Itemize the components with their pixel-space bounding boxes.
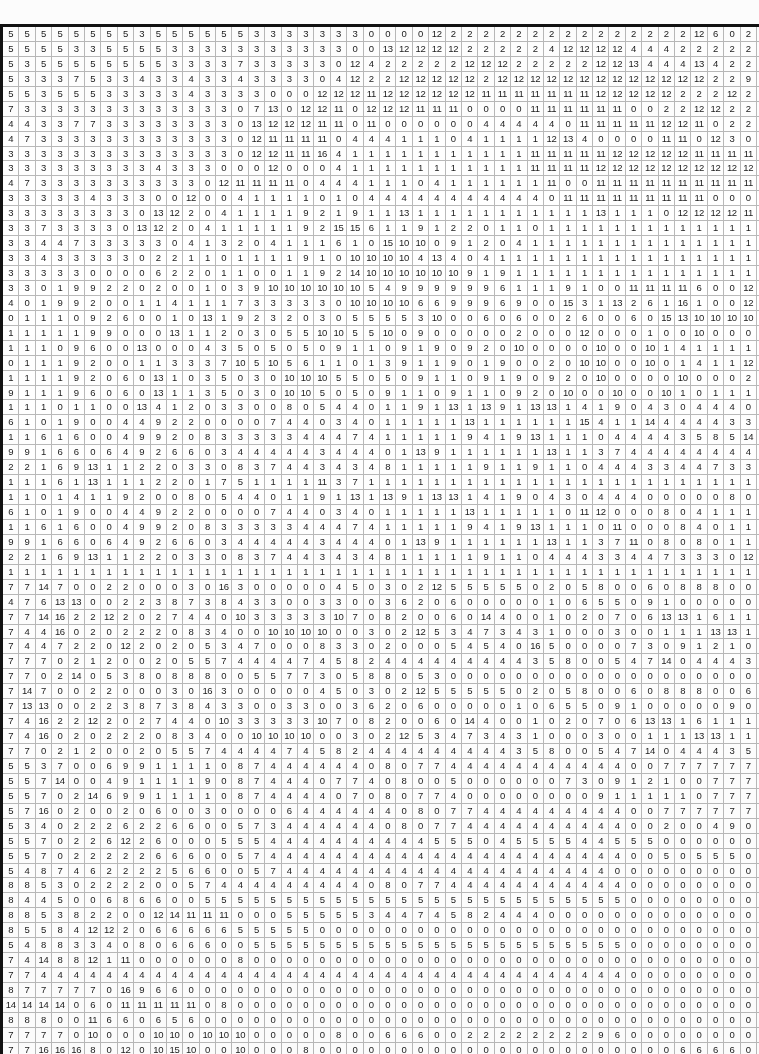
matrix-cell: 4	[527, 116, 543, 131]
matrix-cell: 1	[576, 266, 592, 281]
matrix-cell: 12	[101, 609, 117, 624]
matrix-cell: 4	[412, 833, 428, 848]
matrix-cell: 3	[347, 26, 363, 42]
matrix-cell: 1	[543, 280, 559, 295]
matrix-cell: 0	[265, 579, 281, 594]
matrix-cell: 0	[199, 415, 215, 430]
matrix-cell: 1	[35, 325, 51, 340]
matrix-cell: 1	[543, 266, 559, 281]
matrix-cell: 5	[248, 833, 264, 848]
matrix-cell: 2	[232, 236, 248, 251]
matrix-cell: 1	[379, 206, 395, 221]
matrix-cell: 3	[248, 71, 264, 86]
matrix-cell: 3	[166, 41, 182, 56]
matrix-cell: 3	[134, 191, 150, 206]
matrix-cell: 3	[265, 71, 281, 86]
matrix-cell: 4	[314, 176, 330, 191]
matrix-cell: 3	[429, 669, 445, 684]
matrix-cell: 0	[199, 266, 215, 281]
matrix-cell: 2	[150, 818, 166, 833]
matrix-cell: 2	[740, 101, 756, 116]
matrix-cell: 7	[707, 803, 723, 818]
matrix-cell: 0	[658, 355, 674, 370]
matrix-cell: 0	[707, 669, 723, 684]
matrix-cell: 9	[461, 519, 477, 534]
matrix-cell: 2	[478, 1027, 494, 1042]
matrix-cell: 0	[724, 280, 740, 295]
matrix-cell: 1	[347, 340, 363, 355]
matrix-cell: 0	[658, 1042, 674, 1054]
matrix-cell: 3	[232, 430, 248, 445]
matrix-cell: 0	[183, 1027, 199, 1042]
matrix-cell: 0	[281, 594, 297, 609]
matrix-cell: 1	[445, 430, 461, 445]
matrix-cell: 3	[347, 460, 363, 475]
matrix-cell: 0	[281, 953, 297, 968]
matrix-cell: 0	[379, 818, 395, 833]
matrix-cell: 4	[576, 131, 592, 146]
matrix-cell: 5	[445, 893, 461, 908]
matrix-cell: 0	[511, 714, 527, 729]
matrix-cell: 1	[68, 564, 84, 579]
matrix-cell: 3	[560, 490, 576, 505]
matrix-cell: 0	[248, 624, 264, 639]
matrix-cell: 4	[429, 176, 445, 191]
matrix-cell: 16	[199, 684, 215, 699]
matrix-cell: 5	[281, 938, 297, 953]
matrix-cell: 7	[2, 654, 19, 669]
matrix-cell: 1	[625, 206, 641, 221]
matrix-cell: 5	[2, 758, 19, 773]
matrix-cell: 2	[445, 26, 461, 42]
matrix-cell: 4	[478, 251, 494, 266]
matrix-cell: 4	[494, 729, 510, 744]
matrix-cell: 5	[216, 370, 232, 385]
matrix-cell: 0	[740, 1012, 756, 1027]
matrix-cell: 3	[35, 146, 51, 161]
matrix-cell: 10	[379, 266, 395, 281]
matrix-cell: 2	[150, 534, 166, 549]
matrix-cell: 0	[84, 803, 100, 818]
matrix-cell: 2	[183, 505, 199, 520]
matrix-cell: 2	[478, 908, 494, 923]
matrix-cell: 10	[330, 609, 346, 624]
matrix-cell: 2	[117, 579, 133, 594]
matrix-cell: 1	[461, 564, 477, 579]
matrix-cell: 0	[740, 699, 756, 714]
matrix-cell: 0	[166, 340, 182, 355]
matrix-cell: 4	[298, 549, 314, 564]
matrix-cell: 1	[461, 206, 477, 221]
table-row: 7147002200030163000004503021255555020580…	[2, 684, 759, 699]
table-row: 4019920011411173333301010101066999690015…	[2, 295, 759, 310]
matrix-cell: 1	[363, 161, 379, 176]
matrix-cell: 11	[281, 146, 297, 161]
matrix-cell: 4	[281, 505, 297, 520]
matrix-cell: 4	[117, 445, 133, 460]
table-row: 3333333333333301212111116411111111111111…	[2, 146, 759, 161]
matrix-cell: 12	[560, 71, 576, 86]
matrix-cell: 0	[445, 923, 461, 938]
matrix-cell: 0	[642, 848, 658, 863]
matrix-cell: 1	[216, 221, 232, 236]
matrix-cell: 1	[166, 310, 182, 325]
matrix-cell: 0	[199, 818, 215, 833]
matrix-cell: 8	[560, 654, 576, 669]
matrix-cell: 1	[675, 385, 691, 400]
matrix-cell: 0	[298, 639, 314, 654]
matrix-cell: 1	[478, 415, 494, 430]
matrix-cell: 0	[396, 983, 412, 998]
matrix-cell: 2	[101, 848, 117, 863]
matrix-cell: 7	[609, 445, 625, 460]
matrix-cell: 11	[232, 176, 248, 191]
matrix-cell: 6	[183, 1012, 199, 1027]
matrix-cell: 0	[642, 699, 658, 714]
matrix-cell: 13	[134, 340, 150, 355]
matrix-cell: 4	[347, 445, 363, 460]
matrix-cell: 0	[740, 878, 756, 893]
matrix-cell: 5	[232, 848, 248, 863]
matrix-cell: 1	[2, 490, 19, 505]
matrix-cell: 12	[675, 206, 691, 221]
matrix-cell: 0	[347, 1027, 363, 1042]
matrix-cell: 3	[52, 161, 68, 176]
matrix-cell: 1	[396, 505, 412, 520]
matrix-cell: 0	[101, 340, 117, 355]
